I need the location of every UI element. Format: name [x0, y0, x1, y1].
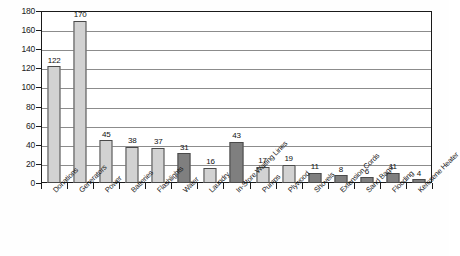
y-axis-tick-label: 120: [21, 63, 35, 73]
bar-value-label: 11: [311, 162, 319, 171]
bar-value-label: 4: [417, 169, 421, 178]
bar-value-label: 38: [128, 136, 137, 145]
y-axis-tick-label: 40: [26, 140, 35, 150]
x-axis-labels: DonationsGeneratorsPowerBatteriesFlashli…: [41, 188, 432, 256]
bar-slot: 31: [171, 11, 197, 183]
bar-value-label: 16: [206, 157, 215, 166]
bar-slot: 38: [119, 11, 145, 183]
bar-value-label: 31: [180, 143, 189, 152]
bar-value-label: 43: [232, 131, 241, 140]
bar: [152, 148, 165, 183]
bar-value-label: 170: [74, 10, 87, 19]
bar-slot: 4: [406, 11, 432, 183]
y-axis-tick-label: 140: [21, 44, 35, 54]
bar-slot: 11: [302, 11, 328, 183]
bar-slot: 8: [328, 11, 354, 183]
bar-value-label: 122: [48, 56, 61, 65]
bar-slot: 170: [67, 11, 93, 183]
y-axis-tick-label: 20: [26, 159, 35, 169]
bar-value-label: 37: [154, 137, 163, 146]
bar: [126, 147, 139, 183]
bar-slot: 37: [145, 11, 171, 183]
bar: [74, 21, 87, 183]
bar-value-label: 19: [284, 154, 293, 163]
bar-value-label: 45: [102, 130, 111, 139]
y-axis-tick-label: 180: [21, 6, 35, 16]
y-axis-tick-label: 100: [21, 82, 35, 92]
bar-value-label: 8: [339, 165, 343, 174]
y-axis-tick-label: 160: [21, 25, 35, 35]
bar-slot: 11: [380, 11, 406, 183]
y-axis-tick-label: 60: [26, 121, 35, 131]
bar: [48, 66, 61, 183]
bar-slot: 122: [41, 11, 67, 183]
y-axis-tick-label: 80: [26, 102, 35, 112]
bar-slot: 45: [93, 11, 119, 183]
bar: [230, 142, 243, 183]
y-axis: 020406080100120140160180: [0, 0, 41, 190]
bar-slot: 19: [276, 11, 302, 183]
bar-slot: 16: [197, 11, 223, 183]
y-axis-tick-label: 0: [30, 178, 35, 188]
bar-slot: 43: [223, 11, 249, 183]
